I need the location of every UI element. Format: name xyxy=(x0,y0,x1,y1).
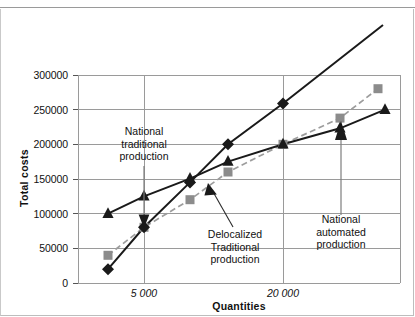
chart-plot-svg xyxy=(0,0,415,317)
annotation-national-automated-production: National automated production xyxy=(289,213,393,251)
chart-figure: 300000 250000 200000 150000 100000 50000… xyxy=(0,0,415,317)
x-tick-label-5000: 5 000 xyxy=(109,287,179,299)
y-tick-label-0: 0 xyxy=(8,277,68,289)
x-tick-label-20000: 20 000 xyxy=(248,287,318,299)
annotation-arrow-national-traditional xyxy=(139,166,150,228)
y-axis-title: Total costs xyxy=(18,149,30,207)
y-tick-label-50000: 50000 xyxy=(8,242,68,254)
x-axis-title: Quantities xyxy=(179,300,299,312)
annotation-arrow-national-automated xyxy=(335,121,347,215)
y-tick-label-300000: 300000 xyxy=(8,69,68,81)
y-axis-ticks xyxy=(73,75,78,283)
y-tick-label-200000: 200000 xyxy=(8,138,68,150)
annotation-arrow-delocalized-traditional xyxy=(204,183,233,227)
annotation-national-traditional-production: National traditional production xyxy=(90,125,198,163)
y-tick-label-150000: 150000 xyxy=(8,173,68,185)
y-tick-label-100000: 100000 xyxy=(8,208,68,220)
annotation-delocalized-traditional-production: Delocalized Traditional production xyxy=(180,228,290,266)
y-tick-label-250000: 250000 xyxy=(8,104,68,116)
